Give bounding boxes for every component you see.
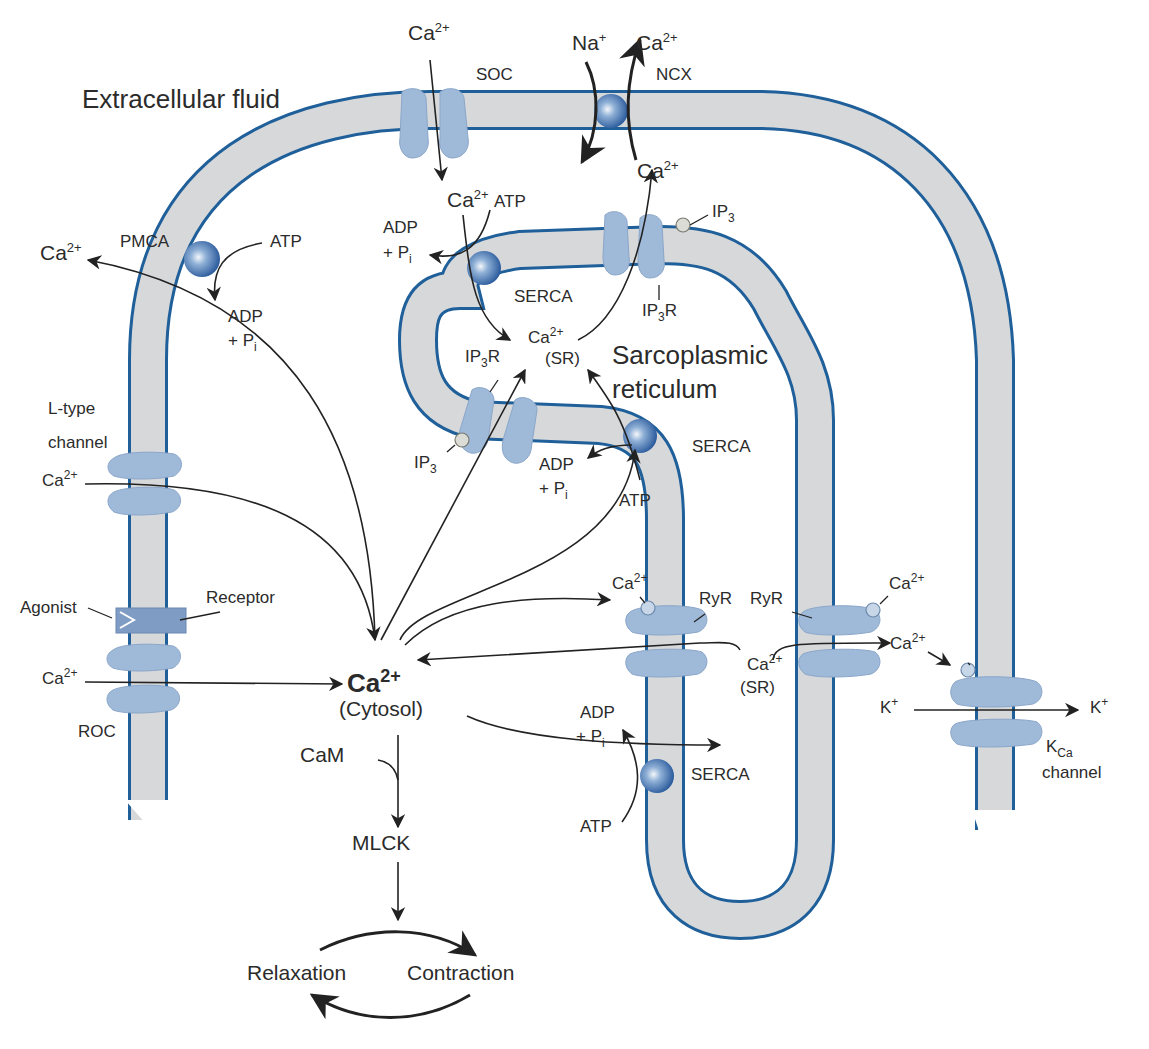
extracellular-fluid-label: Extracellular fluid	[82, 84, 280, 114]
contraction-label: Contraction	[407, 961, 514, 984]
ryr-left-ca-label: Ca2+	[612, 571, 647, 593]
ip3-top-label: IP3	[712, 202, 735, 225]
pmca-pump-icon	[184, 241, 220, 277]
l-type-label-line2: channel	[48, 433, 108, 452]
cam-label: CaM	[300, 743, 344, 766]
serca-mid-label: SERCA	[692, 437, 751, 456]
ncx-ca-out-label: Ca2+	[636, 30, 678, 54]
agonist-label: Agonist	[20, 598, 77, 617]
ip3-ball-top	[676, 218, 690, 232]
serca-top-pi-label: + Pi	[383, 243, 412, 266]
calcium-signaling-diagram: Extracellular fluid Ca2+ SOC Na+ Ca2+ NC…	[0, 0, 1149, 1049]
serca-top-adp-label: ADP	[383, 218, 418, 237]
kca-label: KCa	[1046, 737, 1073, 760]
soc-label: SOC	[476, 65, 513, 84]
serca-top-label: SERCA	[514, 287, 573, 306]
pmca-pi-label: + Pi	[228, 331, 257, 354]
serca-bottom-pump-icon	[640, 759, 674, 793]
roc-label: ROC	[78, 722, 116, 741]
kca-label-line2: channel	[1042, 763, 1102, 782]
cytosol-ca-label: Ca2+	[347, 666, 401, 698]
receptor-label: Receptor	[206, 588, 275, 607]
kca-k-out-label: K+	[1090, 695, 1108, 717]
ncx-label: NCX	[656, 65, 692, 84]
l-type-label-line1: L-type	[48, 399, 95, 418]
ca-sr-center-loc: (SR)	[545, 349, 580, 368]
serca-mid-adp-label: ADP	[539, 455, 574, 474]
pmca-label: PMCA	[120, 232, 170, 251]
ryr-right-label: RyR	[750, 589, 783, 608]
serca-top-ca-label: Ca2+	[447, 187, 489, 211]
pmca-ca-label: Ca2+	[40, 240, 82, 264]
roc-ca-label: Ca2+	[42, 666, 77, 688]
serca-bottom-label: SERCA	[691, 765, 750, 784]
pmca-atp-label: ATP	[270, 232, 302, 251]
serca-mid-pi-label: + Pi	[539, 479, 568, 502]
ryr-left-label: RyR	[699, 589, 732, 608]
pmca-adp-label: ADP	[228, 307, 263, 326]
ca-sr-center-ion: Ca2+	[528, 325, 563, 347]
sr-label-line2: reticulum	[612, 374, 717, 404]
serca-mid-pump-icon	[623, 419, 657, 453]
ca-sr-lower-loc: (SR)	[740, 678, 775, 697]
ncx-exchanger-icon	[594, 94, 628, 128]
serca-bottom-adp-label: ADP	[580, 703, 615, 722]
ncx-na-label: Na+	[572, 30, 606, 54]
ryr-right-ca-label: Ca2+	[889, 571, 924, 593]
sr-label-line1: Sarcoplasmic	[612, 340, 768, 370]
ip3-left-label: IP3	[414, 453, 437, 476]
plasma-membrane	[125, 110, 1020, 840]
diagram-canvas: Extracellular fluid Ca2+ SOC Na+ Ca2+ NC…	[0, 0, 1149, 1049]
mlck-label: MLCK	[352, 831, 410, 854]
cytosol-loc-label: (Cytosol)	[339, 697, 423, 720]
relaxation-label: Relaxation	[247, 961, 346, 984]
soc-ca-label: Ca2+	[408, 20, 450, 44]
ip3-ball-left	[455, 433, 469, 447]
l-type-ca-label: Ca2+	[42, 468, 77, 490]
ip3r-top-label: IP3R	[642, 301, 677, 324]
ip3r-left-label: IP3R	[465, 347, 500, 370]
ncx-ca-in-label: Ca2+	[637, 158, 679, 182]
serca-top-atp-label: ATP	[494, 192, 526, 211]
ryr-right-ca-out-label: Ca2+	[890, 631, 925, 653]
serca-mid-atp-label: ATP	[619, 491, 651, 510]
serca-bottom-pi-label: + Pi	[576, 727, 605, 750]
ca-sr-lower-ion: Ca2+	[747, 652, 782, 674]
kca-k-in-label: K+	[880, 695, 898, 717]
serca-bottom-atp-label: ATP	[580, 817, 612, 836]
receptor	[116, 608, 186, 633]
